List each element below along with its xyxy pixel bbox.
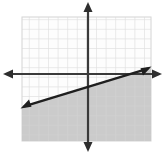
shaded-region-group xyxy=(22,17,151,141)
coordinate-plane-graph xyxy=(0,0,165,154)
grid-lines-over-shading xyxy=(22,17,151,141)
graph-container: Linear inequality: shaded half-plane bel… xyxy=(0,0,165,154)
